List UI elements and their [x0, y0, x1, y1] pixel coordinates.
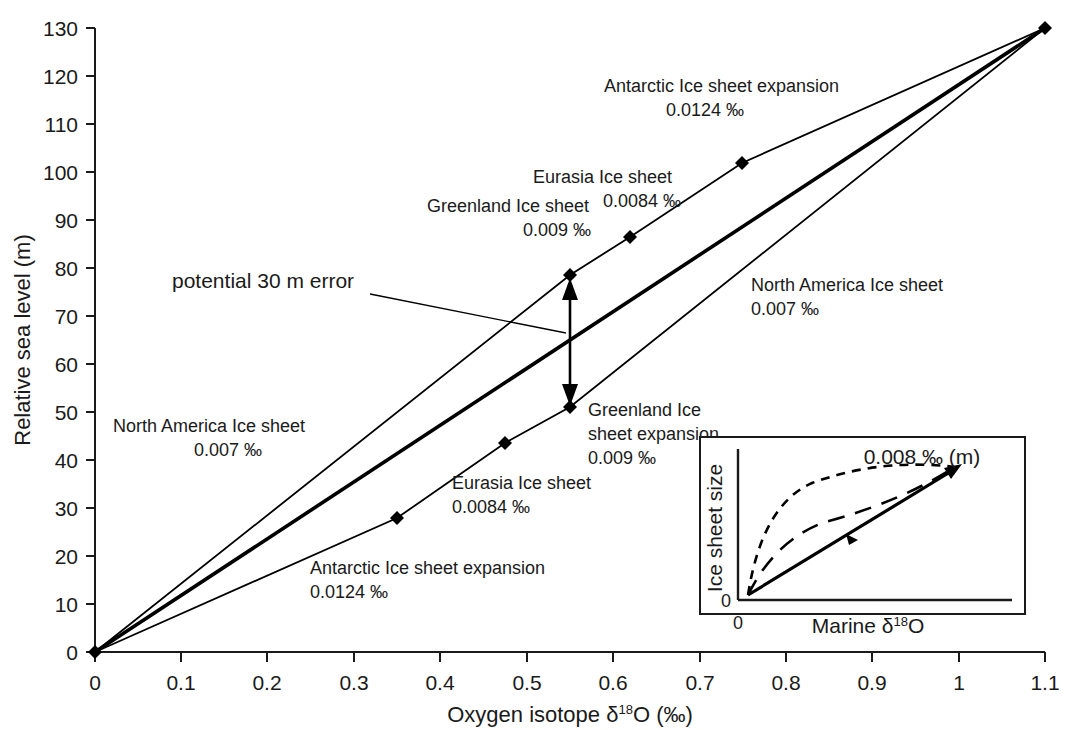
y-tick-label: 120 — [43, 65, 78, 88]
x-tick-label: 0.6 — [598, 671, 627, 694]
x-tick-label: 0 — [89, 671, 101, 694]
y-tick-label: 10 — [55, 593, 78, 616]
inset-value-label: 0.008 ‰ (m) — [864, 445, 981, 468]
y-tick-label: 130 — [43, 17, 78, 40]
x-tick-label: 1.1 — [1030, 671, 1059, 694]
annotation-line-1: Greenland Ice sheet — [427, 196, 589, 216]
annotation-line-3: 0.009 ‰ — [588, 448, 656, 468]
y-tick-label: 60 — [55, 353, 78, 376]
y-tick-label: 100 — [43, 161, 78, 184]
annotation-line-1: Eurasia Ice sheet — [452, 473, 591, 493]
annotation-line-2: 0.0084 ‰ — [452, 497, 530, 517]
x-tick-label: 0.5 — [512, 671, 541, 694]
inset-x-axis-title: Marine δ18O — [812, 614, 925, 637]
annotation-line-2: 0.0084 ‰ — [603, 191, 681, 211]
annotation-line-2: 0.0124 ‰ — [310, 582, 388, 602]
annotation-line-2: 0.0124 ‰ — [666, 100, 744, 120]
y-tick-label: 80 — [55, 257, 78, 280]
x-tick-label: 0.9 — [857, 671, 886, 694]
y-tick-label: 20 — [55, 545, 78, 568]
figure-container: 0 10 20 30 40 50 60 70 80 90 100 110 120… — [0, 0, 1071, 730]
y-tick-label: 110 — [45, 113, 78, 136]
annotation-line-1: Antarctic Ice sheet expansion — [604, 76, 839, 96]
annotation-line-1: Eurasia Ice sheet — [533, 167, 672, 187]
y-tick-label: 90 — [55, 209, 78, 232]
inset-y-axis-title: Ice sheet size — [703, 464, 726, 592]
annotation-line-2: 0.007 ‰ — [751, 299, 819, 319]
chart-svg: 0 10 20 30 40 50 60 70 80 90 100 110 120… — [0, 0, 1071, 730]
y-tick-label: 70 — [55, 305, 78, 328]
inset-y-origin-label: 0 — [721, 591, 731, 611]
inset-x-origin-label: 0 — [733, 613, 743, 633]
x-tick-label: 0.4 — [425, 671, 455, 694]
y-tick-label: 40 — [55, 449, 78, 472]
annotation-line-1: North America Ice sheet — [113, 416, 305, 436]
y-axis-title: Relative sea level (m) — [10, 234, 35, 446]
y-tick-label: 50 — [55, 401, 78, 424]
annotation-line-2: 0.007 ‰ — [194, 440, 262, 460]
x-tick-label: 0.8 — [771, 671, 800, 694]
y-tick-label: 30 — [55, 497, 78, 520]
x-tick-label: 0.1 — [166, 671, 195, 694]
x-tick-label: 0.2 — [252, 671, 281, 694]
annotation-line-2: 0.009 ‰ — [523, 220, 591, 240]
x-tick-label: 1 — [953, 671, 965, 694]
annotation-line-1: North America Ice sheet — [751, 275, 943, 295]
annotation-potential-error: potential 30 m error — [172, 269, 354, 292]
x-tick-label: 0.7 — [685, 671, 714, 694]
annotation-line-1: Greenland Ice — [588, 400, 701, 420]
inset-chart: 0.008 ‰ (m) Ice sheet size Marine δ18O 0… — [700, 437, 1025, 637]
annotation-line-1: Antarctic Ice sheet expansion — [310, 558, 545, 578]
y-tick-label: 0 — [66, 641, 78, 664]
x-tick-label: 0.3 — [339, 671, 368, 694]
x-axis-title: Oxygen isotope δ18O (‰) — [447, 702, 693, 727]
